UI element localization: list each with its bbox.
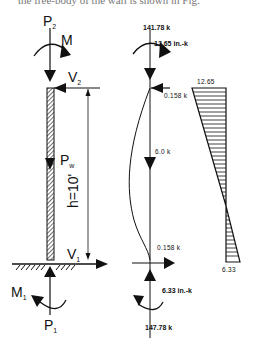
label-v1: V1: [67, 247, 80, 263]
label-m1: M1: [11, 285, 27, 301]
height-dimension-icon: [86, 89, 91, 260]
label-v2: V2: [68, 70, 81, 86]
label-p1: P1: [44, 318, 57, 334]
top-axial-arrow-icon: [44, 28, 56, 82]
label-bottom-moment-value: 6.33 in.-k: [162, 287, 192, 294]
label-bottom-shear-value: 0.158 k: [157, 245, 180, 252]
label-bottom-axial-value: 147.78 k: [145, 324, 172, 331]
ground-support-icon: [12, 264, 96, 270]
bottom-shear-arrow-icon: [96, 259, 108, 269]
bottom-axial-arrow-icon: [144, 269, 156, 281]
bottom-shear-arrow-icon: [132, 257, 175, 269]
self-weight-arrow-icon: [144, 157, 156, 170]
deflected-shape-curve: [129, 88, 150, 260]
free-body-diagram: [0, 0, 253, 352]
bottom-moment-arc-icon: [133, 295, 163, 310]
left-free-body: [12, 28, 108, 315]
label-p2: P2: [43, 14, 56, 30]
label-moment-top-value: 12.65: [197, 79, 215, 86]
label-top-moment-value: 12.65 in.-k: [154, 40, 188, 47]
label-moment-bottom-value: 6.33: [222, 267, 236, 274]
wall-column: [47, 88, 54, 260]
label-pw: Pw: [60, 153, 74, 169]
label-height: h=10': [66, 174, 80, 208]
label-self-weight-value: 6.0 k: [155, 149, 171, 156]
label-top-axial-value: 141.78 k: [143, 24, 170, 31]
moment-diagram: [190, 88, 242, 262]
top-axial-arrow-icon: [144, 68, 156, 80]
bottom-moment-arc-icon: [31, 295, 66, 309]
label-top-shear-value: 0.158 k: [164, 93, 187, 100]
label-m: M: [61, 33, 73, 47]
